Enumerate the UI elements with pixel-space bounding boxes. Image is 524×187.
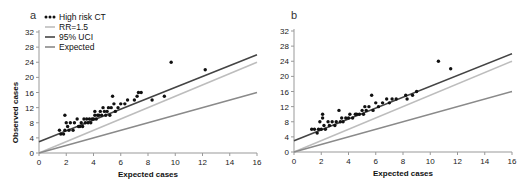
data-point	[385, 97, 388, 100]
x-tick-label: 12	[198, 158, 207, 167]
data-point	[93, 110, 96, 113]
y-tick-label: 20	[280, 72, 289, 81]
legend-label: Expected	[59, 42, 95, 52]
panel-label: a	[30, 9, 37, 21]
data-point	[150, 98, 153, 101]
y-tick-label: 4	[30, 134, 35, 143]
data-point	[105, 110, 108, 113]
data-point	[437, 60, 440, 63]
data-point	[358, 112, 361, 115]
data-point	[135, 95, 138, 98]
data-point	[326, 120, 329, 123]
x-tick-label: 2	[64, 158, 69, 167]
panel-b: b0481216202428320246810121416Expected ca…	[280, 9, 517, 178]
x-tick-label: 10	[426, 157, 435, 166]
data-point	[360, 109, 363, 112]
panel-a: a0481216202428320246810121416Expected ca…	[11, 9, 262, 179]
data-point	[340, 116, 343, 119]
data-point	[108, 113, 111, 116]
data-point	[322, 124, 325, 127]
y-tick-label: 0	[285, 148, 290, 157]
data-point	[65, 121, 68, 124]
data-point	[204, 68, 207, 71]
y-tick-label: 16	[280, 88, 289, 97]
legend-label: 95% UCI	[59, 32, 93, 42]
data-point	[112, 102, 115, 105]
data-point	[313, 128, 316, 131]
figure: a0481216202428320246810121416Expected ca…	[0, 0, 524, 187]
x-tick-label: 8	[401, 157, 406, 166]
x-tick-label: 14	[480, 157, 489, 166]
y-tick-label: 8	[285, 118, 290, 127]
rr-line	[39, 62, 257, 153]
y-tick-label: 20	[25, 73, 34, 82]
data-point	[390, 97, 393, 100]
data-point	[110, 106, 113, 109]
x-tick-label: 6	[119, 158, 124, 167]
data-point	[362, 112, 365, 115]
data-point	[62, 132, 65, 135]
data-point	[116, 106, 119, 109]
data-point	[99, 110, 102, 113]
data-point	[58, 129, 61, 132]
data-point	[126, 98, 129, 101]
data-point	[324, 128, 327, 131]
x-tick-label: 16	[253, 158, 262, 167]
rr-line	[294, 61, 512, 152]
data-point	[371, 109, 374, 112]
data-point	[66, 125, 69, 128]
data-point	[333, 124, 336, 127]
data-point	[374, 101, 377, 104]
x-tick-label: 14	[225, 158, 234, 167]
data-point	[163, 95, 166, 98]
y-tick-label: 28	[25, 43, 34, 52]
data-point	[80, 121, 83, 124]
x-tick-label: 16	[508, 157, 517, 166]
x-tick-label: 2	[319, 157, 324, 166]
legend-marker-points	[53, 16, 56, 19]
data-point	[411, 94, 414, 97]
legend: High risk CTRR=1.595% UCIExpected	[45, 12, 106, 52]
uci-line	[39, 55, 257, 142]
data-point	[63, 113, 66, 116]
data-point	[341, 120, 344, 123]
data-point	[415, 90, 418, 93]
y-axis-label: Observed cases	[11, 81, 20, 143]
y-tick-label: 24	[25, 58, 34, 67]
y-tick-label: 12	[280, 103, 289, 112]
data-point	[315, 131, 318, 134]
uci-line	[294, 54, 512, 141]
y-tick-label: 24	[280, 57, 289, 66]
data-point	[169, 61, 172, 64]
legend-marker-points	[45, 16, 48, 19]
data-point	[133, 98, 136, 101]
y-tick-label: 0	[30, 149, 35, 158]
x-axis-label: Expected cases	[118, 170, 179, 179]
x-tick-label: 10	[171, 158, 180, 167]
x-tick-label: 4	[346, 157, 351, 166]
data-point	[351, 116, 354, 119]
data-point	[63, 129, 66, 132]
x-tick-label: 12	[453, 157, 462, 166]
data-point	[119, 102, 122, 105]
data-point	[348, 112, 351, 115]
y-tick-label: 28	[280, 42, 289, 51]
legend-label: High risk CT	[59, 12, 106, 22]
legend-label: RR=1.5	[59, 22, 88, 32]
data-point	[405, 97, 408, 100]
data-point	[111, 95, 114, 98]
data-point	[321, 112, 324, 115]
data-point	[104, 113, 107, 116]
data-point	[365, 109, 368, 112]
data-point	[100, 113, 103, 116]
data-point	[81, 125, 84, 128]
x-tick-label: 0	[37, 158, 42, 167]
data-point	[394, 97, 397, 100]
y-tick-label: 4	[285, 133, 290, 142]
x-tick-label: 8	[146, 158, 151, 167]
data-point	[123, 102, 126, 105]
data-point	[449, 67, 452, 70]
data-point	[95, 117, 98, 120]
data-point	[377, 105, 380, 108]
data-point	[370, 94, 373, 97]
